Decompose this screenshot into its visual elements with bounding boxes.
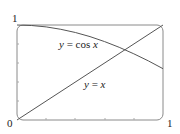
plot-area: [0, 0, 180, 134]
identity-line-label: y = x: [84, 79, 106, 90]
x-max-label: 1: [167, 118, 173, 129]
y-max-label: 1: [12, 13, 18, 24]
cos-curve-label: y = cos x: [59, 39, 98, 50]
origin-label: 0: [7, 118, 13, 129]
